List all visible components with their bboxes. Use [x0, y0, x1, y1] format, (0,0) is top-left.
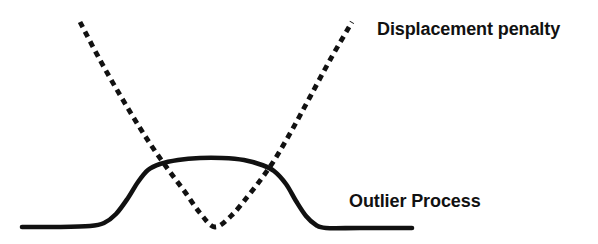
outlier-process-label: Outlier Process	[349, 192, 481, 210]
figure-canvas: Displacement penalty Outlier Process	[0, 0, 598, 244]
displacement-penalty-label: Displacement penalty	[377, 20, 560, 38]
